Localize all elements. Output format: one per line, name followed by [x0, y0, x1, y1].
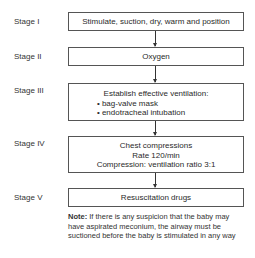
stage-3-bullet-2: • endotracheal intubation — [97, 108, 185, 118]
stage-5-text: Resuscitation drugs — [121, 193, 191, 203]
stage-4-line-2: Rate 120/min — [69, 151, 243, 161]
arrow-down-icon — [155, 121, 156, 135]
stage-1-text: Stimulate, suction, dry, warm and positi… — [82, 17, 229, 27]
stage-2-text: Oxygen — [142, 52, 170, 62]
arrow-down-icon — [155, 173, 156, 187]
stage-1-label: Stage I — [14, 17, 39, 26]
stage-2-label: Stage II — [14, 52, 42, 61]
stage-3-bullet-1: • bag-valve mask — [97, 99, 185, 109]
arrow-down-icon — [155, 31, 156, 46]
stage-5-box: Resuscitation drugs — [68, 188, 244, 207]
note-label: Note: — [68, 212, 87, 221]
stage-1-box: Stimulate, suction, dry, warm and positi… — [68, 12, 244, 31]
stage-4-line-3: Compression: ventilation ratio 3:1 — [69, 160, 243, 170]
note-text: If there is any suspicion that the baby … — [68, 212, 236, 240]
arrow-down-icon — [155, 66, 156, 82]
stage-3-heading: Establish effective ventilation: — [69, 89, 243, 99]
stage-2-box: Oxygen — [68, 47, 244, 66]
note: Note: If there is any suspicion that the… — [68, 212, 244, 241]
stage-5-label: Stage V — [14, 193, 42, 202]
stage-3-box: Establish effective ventilation: • bag-v… — [68, 83, 244, 121]
stage-4-box: Chest compressions Rate 120/min Compress… — [68, 136, 244, 173]
stage-3-label: Stage III — [14, 86, 44, 95]
stage-4-line-1: Chest compressions — [69, 141, 243, 151]
stage-4-label: Stage IV — [14, 139, 45, 148]
